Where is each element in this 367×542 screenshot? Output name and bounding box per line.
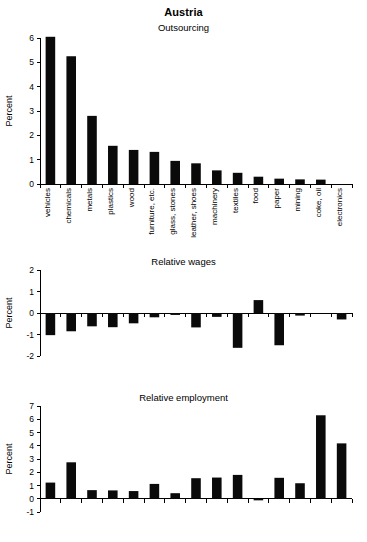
- bar-paper: [274, 478, 284, 499]
- bar-leather-shoes: [191, 313, 201, 327]
- y-tick-label: 1: [29, 155, 34, 165]
- y-tick-label: 2: [29, 467, 34, 477]
- bar-wood: [129, 491, 139, 499]
- bar-chemicals: [66, 313, 76, 331]
- bar-coke-oil: [316, 415, 326, 498]
- y-tick-label: 0: [29, 179, 34, 189]
- bar-electronics: [337, 313, 347, 319]
- y-tick-label: 4: [29, 441, 34, 451]
- category-label: paper: [272, 188, 281, 209]
- y-tick-label: 7: [29, 401, 34, 411]
- y-tick-label: 6: [29, 414, 34, 424]
- y-tick-label: 0: [29, 494, 34, 504]
- category-label: textiles: [231, 188, 240, 213]
- bar-plastics: [108, 490, 118, 498]
- bar-chemicals: [66, 462, 76, 498]
- bar-plastics: [108, 146, 118, 184]
- category-label: glass, stones: [168, 188, 177, 235]
- bar-electronics: [337, 443, 347, 498]
- bar-furniture-etc-: [150, 152, 160, 184]
- bar-wood: [129, 313, 139, 323]
- bar-metals: [87, 116, 97, 184]
- category-label: plastics: [106, 188, 115, 215]
- bar-vehicles: [46, 313, 56, 335]
- panel-relative-employment: Relative employment -101234567Percent: [0, 392, 367, 542]
- y-tick-label: 2: [29, 265, 34, 275]
- y-tick-label: 1: [29, 287, 34, 297]
- chart-relative-wages: -2-1012Percent: [0, 256, 367, 386]
- bar-paper: [274, 313, 284, 345]
- y-tick-label: 3: [29, 454, 34, 464]
- y-axis-title: Percent: [4, 95, 14, 127]
- bar-machinery: [212, 478, 222, 499]
- bar-textiles: [233, 475, 243, 499]
- bar-metals: [87, 490, 97, 499]
- category-label: electronics: [335, 188, 344, 226]
- category-label: chemicals: [64, 188, 73, 224]
- y-tick-label: -1: [26, 507, 34, 517]
- y-tick-label: 1: [29, 481, 34, 491]
- bar-food: [254, 499, 264, 501]
- chart-outsourcing: 0123456Percentvehicleschemicalsmetalspla…: [0, 22, 367, 262]
- category-label: metals: [85, 188, 94, 212]
- bar-metals: [87, 313, 97, 326]
- bar-chemicals: [66, 56, 76, 184]
- bar-glass-stones: [170, 493, 180, 499]
- bar-mining: [295, 179, 305, 184]
- y-tick-label: 0: [29, 308, 34, 318]
- bar-wood: [129, 150, 139, 184]
- panel-relative-wages: Relative wages -2-1012Percent: [0, 256, 367, 386]
- y-tick-label: -2: [26, 351, 34, 361]
- bar-leather-shoes: [191, 478, 201, 499]
- bar-machinery: [212, 313, 222, 317]
- y-tick-label: 3: [29, 106, 34, 116]
- bar-textiles: [233, 313, 243, 348]
- category-label: food: [251, 188, 260, 204]
- bar-furniture-etc-: [150, 313, 160, 317]
- bar-plastics: [108, 313, 118, 327]
- y-tick-label: 2: [29, 130, 34, 140]
- bar-furniture-etc-: [150, 484, 160, 499]
- y-tick-label: 6: [29, 33, 34, 43]
- bar-vehicles: [46, 37, 56, 184]
- category-label: mining: [293, 188, 302, 212]
- panel-outsourcing: Outsourcing 0123456Percentvehicleschemic…: [0, 22, 367, 262]
- bar-vehicles: [46, 483, 56, 499]
- bar-paper: [274, 179, 284, 184]
- y-axis-title: Percent: [4, 297, 14, 329]
- category-label: vehicles: [43, 188, 52, 217]
- chart-relative-employment: -101234567Percent: [0, 392, 367, 542]
- category-label: wood: [127, 188, 136, 208]
- bar-textiles: [233, 173, 243, 184]
- figure-container: Austria Outsourcing 0123456Percentvehicl…: [0, 0, 367, 542]
- category-label: furniture, etc.: [147, 188, 156, 235]
- y-tick-label: 4: [29, 82, 34, 92]
- category-label: coke, oil: [314, 188, 323, 218]
- bar-coke-oil: [316, 180, 326, 184]
- bar-glass-stones: [170, 313, 180, 315]
- y-tick-label: 5: [29, 428, 34, 438]
- bar-glass-stones: [170, 161, 180, 184]
- y-tick-label: -1: [26, 330, 34, 340]
- figure-title: Austria: [0, 6, 367, 18]
- bar-food: [254, 300, 264, 313]
- category-label: machinery: [210, 188, 219, 225]
- bar-leather-shoes: [191, 163, 201, 184]
- bar-machinery: [212, 170, 222, 184]
- y-tick-label: 5: [29, 57, 34, 67]
- bar-mining: [295, 313, 305, 316]
- y-axis-title: Percent: [4, 443, 14, 475]
- bar-food: [254, 177, 264, 184]
- category-label: leather, shoes: [189, 188, 198, 238]
- bar-mining: [295, 483, 305, 499]
